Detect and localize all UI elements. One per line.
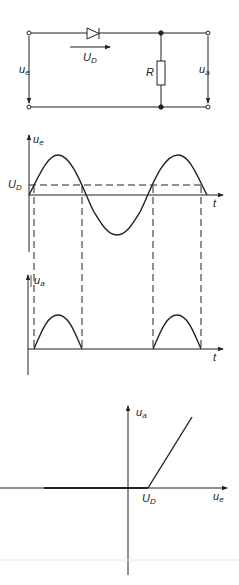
output-pulse-2 bbox=[153, 315, 201, 349]
projection-dashed-lines bbox=[34, 186, 201, 349]
resistor-symbol bbox=[157, 61, 165, 85]
output-pulse-1 bbox=[34, 315, 82, 349]
junction-dot-bottom bbox=[159, 105, 163, 109]
output-y-axis-label: ua bbox=[34, 274, 45, 288]
diode-symbol bbox=[87, 28, 99, 39]
resistor-label: R bbox=[146, 66, 154, 78]
half-wave-rectifier-diagram: UD ue ua R ue UD t ua t ua UD ue bbox=[0, 0, 239, 585]
transfer-x-axis-label: ue bbox=[213, 490, 224, 504]
diode-voltage-label: UD bbox=[83, 51, 97, 65]
input-terminal-top bbox=[27, 31, 31, 35]
junction-dot-top bbox=[159, 31, 163, 35]
transfer-characteristic-graph bbox=[0, 406, 227, 575]
output-terminal-top bbox=[206, 31, 210, 35]
threshold-label: UD bbox=[8, 178, 22, 192]
input-terminal-bottom bbox=[27, 105, 31, 109]
output-t-axis-label: t bbox=[213, 351, 217, 363]
input-waveform-graph bbox=[29, 135, 223, 252]
output-terminal-bottom bbox=[206, 105, 210, 109]
output-waveform-graph bbox=[28, 275, 223, 375]
input-t-axis-label: t bbox=[213, 197, 217, 209]
transfer-y-axis-label: ua bbox=[136, 406, 147, 420]
circuit-schematic bbox=[27, 28, 210, 109]
knee-label: UD bbox=[142, 492, 156, 506]
input-y-axis-label: ue bbox=[33, 133, 44, 147]
conduction-segment bbox=[148, 417, 192, 488]
input-voltage-label: ue bbox=[19, 63, 30, 77]
